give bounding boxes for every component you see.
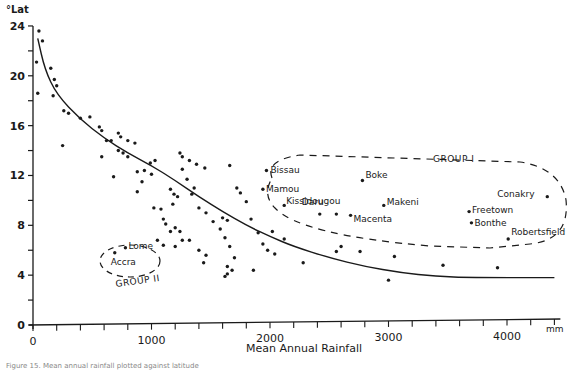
y-tick-label: 20: [10, 70, 26, 83]
data-point: [169, 187, 172, 190]
y-tick-label: 16: [10, 120, 26, 133]
data-point: [36, 92, 39, 95]
data-point: [140, 180, 143, 183]
data-point: [55, 84, 58, 87]
data-point: [169, 230, 172, 233]
station-label-accra: Accra: [111, 257, 136, 267]
data-point: [174, 245, 177, 248]
data-point: [53, 78, 56, 81]
x-axis-title: Mean Annual Rainfall: [246, 342, 362, 355]
data-point: [117, 131, 120, 134]
data-point: [41, 39, 44, 42]
data-point: [335, 250, 338, 253]
data-point: [159, 207, 162, 210]
data-point: [271, 230, 274, 233]
data-point: [197, 206, 200, 209]
data-point: [113, 251, 116, 254]
data-point: [335, 212, 338, 215]
x-tick-label: 1000: [138, 334, 166, 347]
data-point: [265, 169, 268, 172]
data-point: [164, 222, 167, 225]
station-label-mamou: Mamou: [266, 184, 299, 194]
data-point: [387, 278, 390, 281]
data-point: [156, 239, 159, 242]
y-tick-label: 8: [17, 219, 25, 232]
data-point: [221, 216, 224, 219]
data-point: [121, 151, 124, 154]
trend-curve-path: [38, 38, 555, 277]
figure-caption: Figure 15. Mean annual rainfall plotted …: [6, 362, 199, 370]
data-point: [230, 268, 233, 271]
station-label-boke: Boke: [365, 170, 388, 180]
data-point: [51, 94, 54, 97]
data-point: [181, 155, 184, 158]
data-point: [181, 239, 184, 242]
data-point: [339, 245, 342, 248]
y-tick-label: 0: [17, 319, 25, 332]
data-point: [318, 212, 321, 215]
data-point: [195, 163, 198, 166]
group-2-label: GROUP II: [115, 273, 160, 289]
data-point: [393, 255, 396, 258]
data-point: [62, 109, 65, 112]
station-label-makeni: Makeni: [387, 197, 419, 207]
data-point: [172, 192, 175, 195]
data-point: [37, 29, 40, 32]
data-point: [150, 173, 153, 176]
data-point: [153, 159, 156, 162]
data-point: [228, 164, 231, 167]
data-point: [35, 60, 38, 63]
data-point: [178, 151, 181, 154]
data-point: [110, 139, 113, 142]
data-point: [181, 168, 184, 171]
data-point: [506, 237, 509, 240]
data-point: [98, 125, 101, 128]
station-label-robertsfield: Robertsfield: [511, 227, 565, 237]
data-point: [174, 226, 177, 229]
data-point: [256, 231, 259, 234]
data-point: [204, 254, 207, 257]
data-point: [361, 179, 364, 182]
data-point: [112, 175, 115, 178]
y-tick-label: 12: [10, 169, 25, 182]
y-tick-label: 4: [17, 269, 25, 282]
data-point: [49, 67, 52, 70]
data-point: [283, 237, 286, 240]
data-point: [349, 214, 352, 217]
data-point: [226, 272, 229, 275]
data-point: [171, 202, 174, 205]
data-point: [546, 195, 549, 198]
data-point: [143, 169, 146, 172]
data-point: [226, 265, 229, 268]
x-tick-label: 4000: [493, 330, 521, 343]
data-point: [192, 186, 195, 189]
data-point: [117, 149, 120, 152]
y-axis-unit-label: °Lat: [6, 4, 29, 15]
data-point: [100, 155, 103, 158]
station-label-lome: Lome: [128, 241, 153, 251]
data-point: [100, 129, 103, 132]
station-label-macenta: Macenta: [354, 214, 393, 224]
data-point: [88, 115, 91, 118]
data-point: [233, 256, 236, 259]
data-point: [136, 170, 139, 173]
data-point: [211, 220, 214, 223]
data-point: [228, 245, 231, 248]
station-label-bonthe: Bonthe: [474, 218, 507, 228]
data-point: [126, 155, 129, 158]
data-point: [235, 186, 238, 189]
data-point: [178, 230, 181, 233]
station-label-freetown: Freetown: [472, 205, 513, 215]
data-point: [79, 116, 82, 119]
data-point: [202, 261, 205, 264]
x-axis-unit-label: mm: [546, 324, 564, 334]
data-point: [185, 178, 188, 181]
data-point: [126, 139, 129, 142]
data-point: [496, 266, 499, 269]
data-point: [261, 187, 264, 190]
data-point: [176, 195, 179, 198]
data-point: [226, 219, 229, 222]
x-tick-label: 0: [30, 335, 37, 348]
data-point: [105, 139, 108, 142]
data-point: [382, 204, 385, 207]
